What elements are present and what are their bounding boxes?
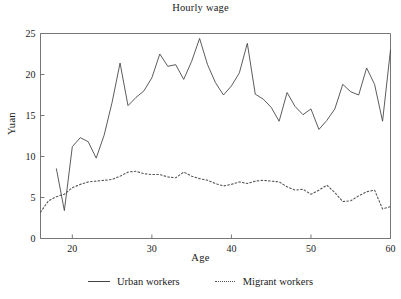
plot-frame [41,34,391,239]
y-tick-label-25: 25 [10,29,36,39]
legend-label: Migrant workers [243,276,313,287]
y-tick-label-10: 10 [10,152,36,162]
x-tick-label-30: 30 [137,244,167,254]
legend-entry-migrant[interactable]: Migrant workers [214,276,313,287]
hourly-wage-chart: Hourly wage Yuan Age 0510152025 20304050… [0,0,401,299]
legend-dotted-line-icon [214,278,236,286]
x-tick-label-40: 40 [216,244,246,254]
axis-ticks [41,34,391,239]
series-line-migrant [41,171,391,212]
y-tick-label-5: 5 [10,193,36,203]
axis-lines [41,34,391,239]
series-line-urban [56,38,390,210]
x-tick-label-50: 50 [296,244,326,254]
x-tick-label-20: 20 [57,244,87,254]
data-series-layer [41,38,391,212]
chart-legend: Urban workersMigrant workers [0,276,401,287]
legend-solid-line-icon [88,278,110,286]
plot-area [0,0,401,299]
y-tick-label-15: 15 [10,111,36,121]
x-tick-label-60: 60 [376,244,401,254]
y-tick-label-20: 20 [10,70,36,80]
legend-label: Urban workers [117,276,180,287]
legend-entry-urban[interactable]: Urban workers [88,276,180,287]
y-tick-label-0: 0 [10,234,36,244]
